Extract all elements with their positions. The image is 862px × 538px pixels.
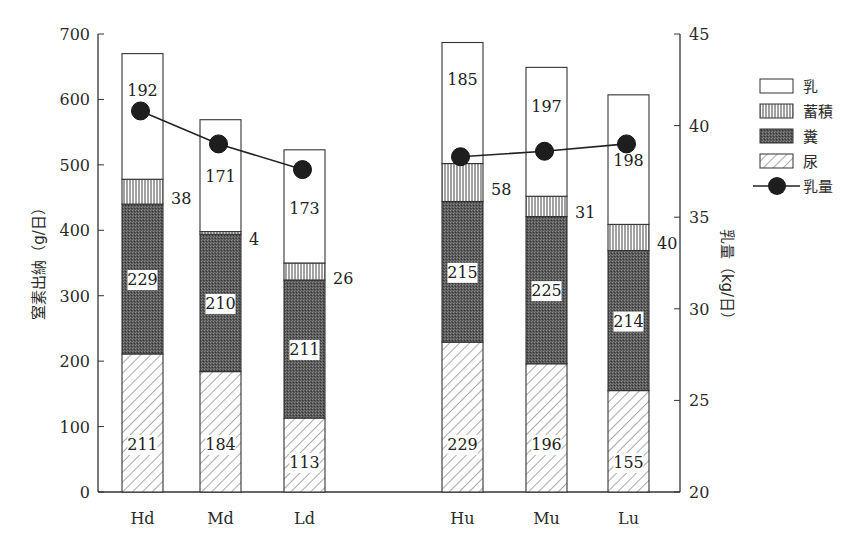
legend-swatch [760, 104, 793, 118]
left-tick-label: 700 [59, 25, 90, 44]
bar-segment [122, 354, 163, 492]
value-label: 185 [447, 70, 478, 89]
right-tick-label: 25 [689, 391, 709, 410]
category-label: Lu [618, 509, 639, 528]
line-marker [210, 135, 228, 153]
right-tick-label: 40 [689, 117, 709, 136]
bars [122, 43, 649, 492]
value-label: 196 [531, 435, 562, 454]
left-tick-label: 100 [59, 418, 90, 437]
value-label: 155 [613, 453, 644, 472]
category-label: Md [207, 509, 234, 528]
line-marker [536, 142, 554, 160]
legend-swatch [760, 79, 793, 93]
bar-segment [608, 391, 649, 492]
value-label: 210 [205, 294, 236, 313]
legend-label: 乳 [803, 78, 818, 96]
value-label: 40 [657, 234, 677, 253]
legend-swatch [760, 129, 793, 143]
line-marker [132, 102, 150, 120]
legend-label: 乳量 [803, 178, 833, 196]
bar-segment [442, 342, 483, 492]
value-label: 4 [249, 230, 259, 249]
legend-label: 糞 [803, 128, 818, 146]
bar-segment [442, 164, 483, 202]
bar-segment [284, 263, 325, 280]
category-label: Hd [130, 509, 154, 528]
value-label: 197 [531, 97, 562, 116]
value-label: 171 [205, 167, 236, 186]
bar-segment [442, 43, 483, 164]
bar-segment [122, 179, 163, 204]
chart-canvas: 0100200300400500600700202530354045窒素出納（g… [0, 0, 862, 538]
left-axis-title: 窒素出納（g/日） [30, 200, 48, 320]
value-label: 211 [289, 340, 320, 359]
right-axis-title: 乳量（kg/日） [718, 229, 736, 327]
category-label: Mu [533, 509, 560, 528]
right-tick-label: 20 [689, 483, 709, 502]
bar-segment [526, 67, 567, 196]
value-label: 58 [491, 180, 511, 199]
category-label: Ld [294, 509, 315, 528]
left-tick-label: 200 [59, 352, 90, 371]
value-label: 192 [127, 81, 158, 100]
left-tick-label: 500 [59, 156, 90, 175]
left-tick-label: 300 [59, 287, 90, 306]
right-tick-label: 45 [689, 25, 709, 44]
left-tick-label: 0 [80, 483, 90, 502]
value-label: 113 [289, 453, 320, 472]
right-tick-label: 30 [689, 300, 709, 319]
category-label: Hu [450, 509, 474, 528]
legend-label: 蓄積 [803, 103, 833, 121]
value-label: 229 [127, 270, 158, 289]
line-marker [294, 161, 312, 179]
value-label: 184 [205, 435, 236, 454]
right-tick-label: 35 [689, 208, 709, 227]
line-marker [452, 148, 470, 166]
bar-segment [200, 372, 241, 492]
value-label: 38 [171, 189, 191, 208]
bar-segment [526, 364, 567, 492]
value-label: 214 [613, 312, 644, 331]
legend-swatch [760, 154, 793, 168]
value-label: 211 [127, 435, 158, 454]
value-label: 215 [447, 263, 478, 282]
left-tick-label: 600 [59, 90, 90, 109]
value-label: 26 [333, 269, 353, 288]
value-label: 229 [447, 435, 478, 454]
bar-segment [608, 224, 649, 250]
value-label: 225 [531, 281, 562, 300]
value-label: 198 [613, 151, 644, 170]
value-label: 173 [289, 199, 320, 218]
legend: 乳蓄積糞尿乳量 [753, 78, 833, 196]
bar-segment [526, 196, 567, 216]
value-label: 31 [575, 203, 595, 222]
left-tick-label: 400 [59, 221, 90, 240]
legend-marker [768, 177, 786, 195]
legend-label: 尿 [803, 153, 818, 171]
